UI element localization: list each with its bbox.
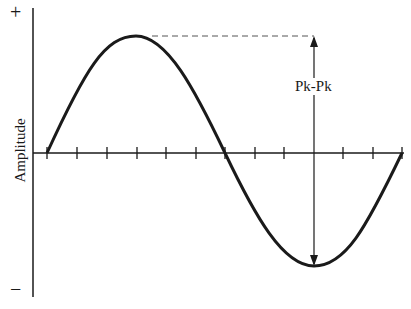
sine-wave-diagram [0,0,411,309]
y-positive-marker: + [10,1,21,24]
sine-wave-curve [47,36,402,266]
y-negative-marker: − [10,278,21,301]
arrow-down-icon [310,255,318,266]
y-axis-label: Amplitude [12,111,29,191]
pk-pk-label: Pk-Pk [293,78,334,95]
arrow-up-icon [310,36,318,47]
